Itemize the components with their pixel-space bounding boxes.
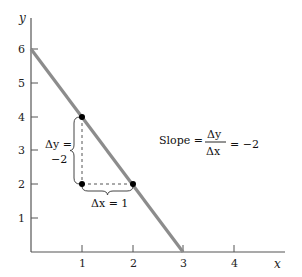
y-tick-labels: 1 2 3 4 5 6 [18,43,25,225]
x-tick-labels: 1 2 3 4 [79,257,238,270]
y-tick-label: 3 [18,144,25,157]
slope-denominator: Δx [206,145,221,158]
x-tick-label: 1 [79,257,86,270]
y-tick-label: 6 [18,43,25,56]
delta-y-label: Δy = [45,138,72,151]
slope-value: = −2 [230,138,259,151]
y-axis-label: y [18,11,26,25]
slope-chart: 1 2 3 4 5 6 1 2 3 4 y x Δy = −2 Δx = 1 S… [0,0,302,277]
delta-x-label: Δx = 1 [91,197,128,210]
x-axis-label: x [274,257,281,271]
delta-x-brace [82,186,133,195]
y-ticks [31,49,38,218]
y-tick-label: 4 [18,111,25,124]
point-2-2 [130,181,136,187]
y-tick-label: 5 [18,77,25,90]
x-tick-label: 3 [180,257,187,270]
point-1-4 [79,114,85,120]
x-ticks [82,245,234,252]
slope-numerator: Δy [207,128,222,141]
delta-y-value: −2 [51,153,67,166]
x-tick-label: 2 [130,257,137,270]
slope-prefix: Slope = [159,134,203,147]
x-tick-label: 4 [231,257,238,270]
y-tick-label: 1 [18,212,25,225]
point-1-2 [79,181,85,187]
y-tick-label: 2 [18,178,25,191]
